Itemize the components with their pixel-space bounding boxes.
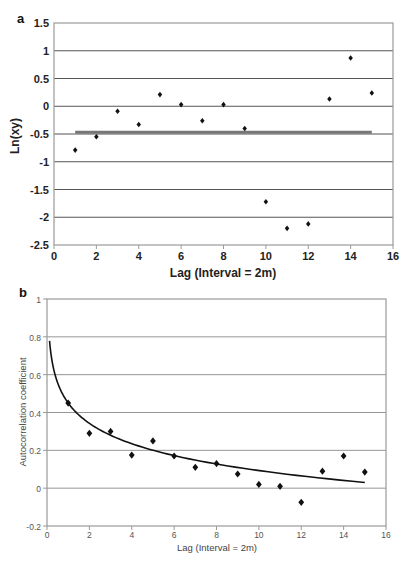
x-tick-label: 10 [254, 530, 264, 540]
data-point-marker [214, 460, 220, 467]
data-point-marker [115, 108, 119, 114]
x-tick-label: 8 [214, 530, 219, 540]
data-points [73, 55, 374, 231]
data-point-marker [150, 437, 156, 444]
y-tick-label: 1.5 [34, 17, 49, 29]
data-point-marker [235, 470, 241, 477]
x-tick-label: 12 [297, 530, 307, 540]
data-point-marker [362, 468, 368, 475]
data-point-marker [94, 134, 98, 140]
x-tick-label: 2 [87, 530, 92, 540]
data-point-marker [137, 122, 141, 128]
data-point-marker [65, 399, 71, 406]
data-point-marker [108, 428, 114, 435]
data-point-marker [298, 499, 304, 506]
x-tick-label: 14 [345, 250, 358, 262]
x-tick-label: 2 [93, 250, 99, 262]
data-point-marker [242, 126, 246, 132]
panel-label-a: a [17, 11, 25, 26]
y-tick-label: 1 [43, 45, 49, 57]
x-tick-labels: 0246810121416 [45, 530, 391, 540]
data-point-marker [348, 55, 352, 61]
data-point-marker [129, 451, 135, 458]
x-tick-label: 0 [51, 250, 57, 262]
y-tick-label: -2.5 [30, 239, 49, 251]
data-point-marker [285, 226, 289, 232]
plot-frame [54, 23, 393, 249]
x-tick-label: 6 [172, 530, 177, 540]
y-tick-label: 0 [43, 100, 49, 112]
data-point-marker [200, 118, 204, 124]
y-tick-label: -2 [39, 211, 49, 223]
data-point-marker [73, 147, 77, 153]
x-tick-label: 16 [381, 530, 391, 540]
data-point-marker [320, 468, 326, 475]
data-point-marker [370, 90, 374, 96]
y-tick-label: 0.4 [29, 409, 41, 419]
y-tick-label: -0.5 [30, 128, 49, 140]
y-axis-label: Ln(xy) [8, 118, 22, 154]
y-tick-labels: 10.80.60.40.20-0.2 [26, 295, 41, 532]
data-point-marker [192, 464, 198, 471]
chart-a: a 1.510.50-0.5-1-1.5-2-2.5 0246810121416… [0, 0, 405, 285]
plot-frame [43, 299, 386, 530]
x-tick-label: 6 [178, 250, 184, 262]
y-tick-label: 0.8 [29, 333, 41, 343]
y-tick-labels: 1.510.50-0.5-1-1.5-2-2.5 [30, 17, 49, 251]
y-tick-label: 1 [36, 295, 41, 305]
data-point-marker [256, 481, 262, 488]
data-point-marker [158, 92, 162, 98]
y-tick-label: 0.6 [29, 371, 41, 381]
x-tick-label: 0 [45, 530, 50, 540]
x-tick-label: 12 [302, 250, 314, 262]
y-axis-label: Autocorrelation coefficient [17, 357, 28, 466]
gridlines [54, 51, 393, 218]
data-point-marker [277, 483, 283, 490]
data-point-marker [86, 430, 92, 437]
data-point-marker [171, 452, 177, 459]
y-tick-label: -1.5 [30, 184, 49, 196]
fit-curve-path [50, 341, 365, 483]
y-tick-label: 0 [36, 484, 41, 494]
x-tick-labels: 0246810121416 [51, 250, 399, 262]
x-tick-label: 10 [260, 250, 272, 262]
data-point-marker [341, 452, 347, 459]
x-tick-label: 4 [129, 530, 134, 540]
plot-area-border [47, 299, 386, 526]
y-tick-label: -1 [39, 156, 49, 168]
data-point-marker [327, 96, 331, 102]
fit-curve [50, 341, 365, 483]
x-axis-label: Lag (Interval = 2m) [170, 266, 276, 280]
x-axis-label: Lag (Interval = 2m) [177, 542, 257, 553]
panel-label-b: b [19, 285, 27, 300]
data-points [65, 399, 367, 506]
gridlines [47, 337, 386, 488]
x-tick-label: 4 [136, 250, 143, 262]
x-tick-label: 16 [387, 250, 399, 262]
y-tick-label: 0.5 [34, 73, 49, 85]
y-tick-label: 0.2 [29, 446, 41, 456]
x-tick-label: 8 [220, 250, 226, 262]
x-tick-label: 14 [339, 530, 349, 540]
data-point-marker [306, 221, 310, 227]
y-tick-label: -0.2 [26, 522, 41, 532]
data-point-marker [264, 199, 268, 205]
